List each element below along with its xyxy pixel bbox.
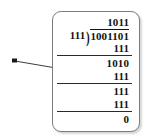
dot-marker xyxy=(12,59,17,63)
quotient-value: 1011 xyxy=(107,16,129,29)
final-remainder-row: 0 xyxy=(57,112,132,126)
final-remainder-value: 0 xyxy=(123,113,129,126)
divisor-value: 111 xyxy=(70,29,86,42)
quotient-row: 1011 xyxy=(57,16,132,29)
first-remainder-row: 1010 xyxy=(57,56,132,70)
figure-canvas: 1011 111)1001101 111 1010 111 111 111 0 xyxy=(0,0,152,140)
division-bracket-icon: ) xyxy=(85,28,90,46)
division-box: 1011 111)1001101 111 1010 111 111 111 0 xyxy=(52,11,140,132)
long-division-worksheet: 1011 111)1001101 111 1010 111 111 111 0 xyxy=(53,12,139,131)
dividend-row: 111)1001101 xyxy=(57,29,132,42)
leader-line xyxy=(15,61,56,68)
callout-leader xyxy=(0,40,56,80)
second-remainder-value: 111 xyxy=(113,85,129,98)
first-subtract-row: 111 xyxy=(57,42,132,56)
third-subtract-row: 111 xyxy=(57,98,132,112)
second-subtract-row: 111 xyxy=(57,70,132,84)
first-subtract-value: 111 xyxy=(113,42,129,55)
second-subtract-value: 111 xyxy=(113,70,129,83)
second-remainder-row: 111 xyxy=(57,84,132,98)
dividend-value: 1001101 xyxy=(90,29,129,43)
first-remainder-value: 1010 xyxy=(107,57,129,70)
third-subtract-value: 111 xyxy=(113,98,129,111)
leader-line-svg xyxy=(0,40,56,80)
